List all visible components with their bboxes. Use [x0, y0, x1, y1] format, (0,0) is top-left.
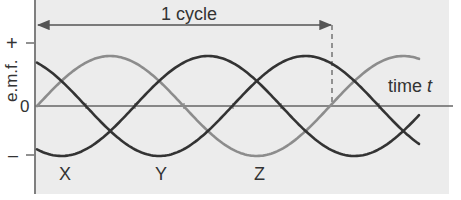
x-axis-label: time t	[388, 76, 433, 96]
emf-waveform-diagram: + 0 – e.m.f. 1 cycle X Y Z time t	[0, 0, 461, 200]
curve-label-x: X	[59, 164, 71, 184]
y-axis-label: e.m.f.	[2, 59, 21, 102]
cycle-label: 1 cycle	[161, 4, 217, 24]
curve-label-z: Z	[254, 164, 265, 184]
y-tick-minus: –	[8, 145, 18, 165]
y-tick-plus: +	[6, 32, 18, 54]
y-tick-zero: 0	[20, 97, 29, 116]
curve-label-y: Y	[155, 164, 167, 184]
